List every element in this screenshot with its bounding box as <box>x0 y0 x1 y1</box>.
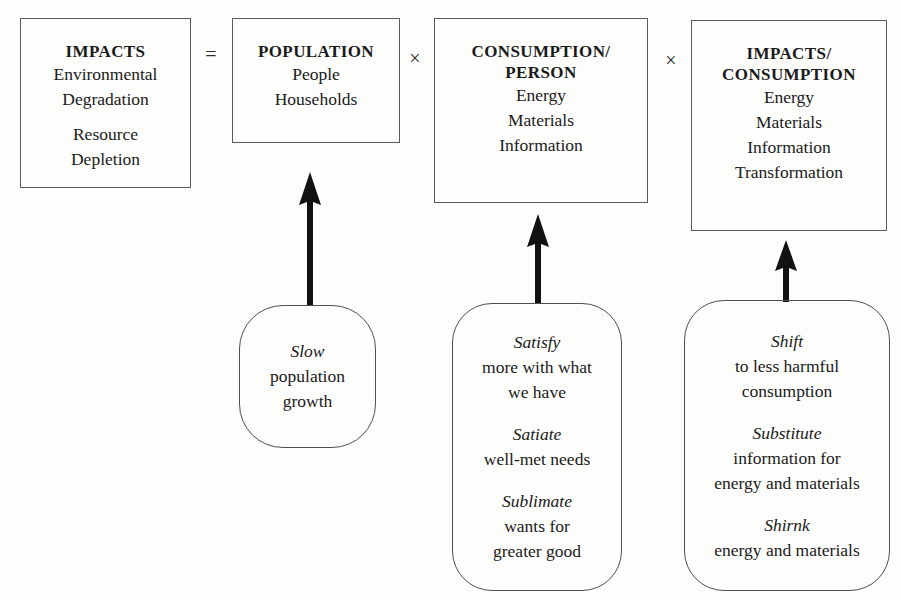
term-title-population: POPULATION <box>258 41 374 62</box>
strategy-line: well-met needs <box>484 447 590 472</box>
strategy-line: wants for <box>493 514 581 539</box>
strategy-line: consumption <box>735 379 839 404</box>
strategy-keyword: Satiate <box>484 422 590 447</box>
term-line: Environmental <box>53 62 157 87</box>
term-box-consumption-per-person: CONSUMPTION/ PERSON Energy Materials Inf… <box>434 18 648 203</box>
term-line: Degradation <box>62 87 149 112</box>
strategy-line: population <box>270 364 345 389</box>
strategy-keyword: Sublimate <box>493 489 581 514</box>
strategy-line: greater good <box>493 539 581 564</box>
term-title-impacts: IMPACTS <box>66 41 146 62</box>
term-line: Resource <box>73 122 138 147</box>
strategy-keyword: Satisfy <box>482 330 592 355</box>
strategy-keyword: Shift <box>735 329 839 354</box>
arrow-population-icon <box>296 172 324 305</box>
strategy-group: Satiate well-met needs <box>484 422 590 472</box>
strategy-line: more with what <box>482 355 592 380</box>
term-line: Information <box>499 133 583 158</box>
diagram-canvas: IMPACTS Environmental Degradation Resour… <box>0 0 901 600</box>
strategy-keyword: Shirnk <box>714 513 859 538</box>
strategy-line: energy and materials <box>714 471 859 496</box>
term-line: Materials <box>756 110 822 135</box>
strategy-group: Shirnk energy and materials <box>714 513 859 563</box>
strategy-box-population: Slow population growth <box>239 305 376 448</box>
strategy-keyword: Substitute <box>714 421 859 446</box>
arrow-consumption-icon <box>524 214 552 304</box>
strategy-line: we have <box>482 380 592 405</box>
operator-times-2: × <box>660 50 682 70</box>
arrow-impacts-icon <box>772 240 800 302</box>
strategy-line: to less harmful <box>735 354 839 379</box>
term-title-consumption-per-person: CONSUMPTION/ PERSON <box>472 41 611 83</box>
strategy-group: Substitute information for energy and ma… <box>714 421 859 496</box>
term-line: Energy <box>516 83 566 108</box>
operator-equals: = <box>200 44 222 64</box>
strategy-keyword: Slow <box>270 339 345 364</box>
term-line: Information <box>747 135 831 160</box>
strategy-line: growth <box>270 389 345 414</box>
strategy-group: Slow population growth <box>270 339 345 414</box>
term-line: Materials <box>508 108 574 133</box>
term-title-impacts-per-consumption: IMPACTS/ CONSUMPTION <box>722 43 856 85</box>
strategy-group: Sublimate wants for greater good <box>493 489 581 564</box>
term-line: People <box>292 62 340 87</box>
term-line: Depletion <box>71 147 140 172</box>
strategy-box-impacts: Shift to less harmful consumption Substi… <box>684 300 890 591</box>
term-line: Households <box>275 87 358 112</box>
term-line: Energy <box>764 85 814 110</box>
strategy-box-consumption: Satisfy more with what we have Satiate w… <box>452 303 622 591</box>
operator-times-1: × <box>404 48 426 68</box>
term-box-impacts-per-consumption: IMPACTS/ CONSUMPTION Energy Materials In… <box>691 20 887 231</box>
strategy-group: Satisfy more with what we have <box>482 330 592 405</box>
term-box-impacts: IMPACTS Environmental Degradation Resour… <box>20 18 191 188</box>
term-line: Transformation <box>735 160 843 185</box>
strategy-line: energy and materials <box>714 538 859 563</box>
strategy-group: Shift to less harmful consumption <box>735 329 839 404</box>
term-box-population: POPULATION People Households <box>232 18 400 143</box>
strategy-line: information for <box>714 446 859 471</box>
